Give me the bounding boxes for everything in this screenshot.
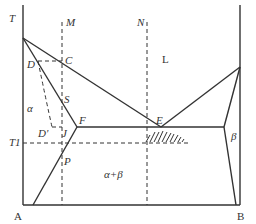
- label-alpha-beta: α+β: [104, 168, 123, 180]
- label-beta: β: [230, 130, 237, 142]
- label-f: F: [78, 114, 86, 126]
- phase-diagram: T M N L C D S α F E D' J β T1 P α+β A B: [0, 0, 256, 224]
- label-alpha: α: [27, 102, 33, 114]
- label-d: D: [26, 58, 35, 70]
- label-j: J: [62, 127, 68, 139]
- label-component-b: B: [237, 210, 244, 222]
- liquidus-right: [161, 67, 240, 127]
- label-c: C: [65, 54, 73, 66]
- label-component-a: A: [14, 210, 22, 222]
- label-p: P: [63, 155, 71, 167]
- label-s: S: [64, 93, 70, 105]
- label-e: E: [155, 114, 163, 126]
- nonequilibrium-solidus: [38, 61, 52, 127]
- label-temperature: T: [9, 12, 16, 24]
- label-n: N: [136, 16, 145, 28]
- label-d-prime: D': [37, 127, 49, 139]
- label-liquid: L: [162, 53, 169, 65]
- label-t1: T1: [9, 136, 21, 148]
- solidus-right: [224, 67, 240, 127]
- hatched-region: [146, 131, 184, 142]
- label-m: M: [65, 16, 76, 28]
- liquidus-left: [23, 38, 161, 127]
